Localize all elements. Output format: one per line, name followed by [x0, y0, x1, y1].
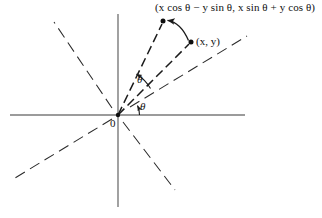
origin-marker: [116, 113, 120, 117]
guide-line-original-direction-opposite: [15, 119, 112, 178]
diagram-canvas: [0, 0, 322, 218]
rotation-arc-arrow: [168, 20, 189, 40]
angle-label-lower-theta: θ: [140, 101, 145, 112]
guide-line-rotated-direction-opposite: [54, 22, 112, 108]
rotated-point-label: (x cos θ − y sin θ, x sin θ + y cos θ): [155, 2, 315, 13]
ray-to-original-point: [118, 44, 189, 115]
guide-line-original-direction: [130, 36, 247, 107]
original-point-label: (x, y): [196, 36, 220, 47]
rotation-diagram-figure: (x cos θ − y sin θ, x sin θ + y cos θ) (…: [0, 0, 322, 218]
origin-label: 0: [110, 118, 116, 129]
point-marker-rotated: [161, 19, 166, 24]
angle-label-upper-theta: θ: [137, 74, 142, 85]
point-marker-original: [189, 40, 194, 45]
guide-line-rotated-extension-lower: [123, 122, 175, 190]
